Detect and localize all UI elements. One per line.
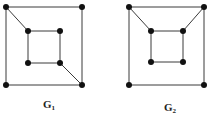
graph-vertex bbox=[25, 28, 31, 34]
graph-vertex bbox=[25, 60, 31, 66]
graph-vertex bbox=[148, 28, 154, 34]
label-base: G bbox=[164, 101, 173, 113]
graph-vertex bbox=[201, 4, 207, 10]
label-subscript: 2 bbox=[173, 107, 177, 115]
graph-g2-label: G2 bbox=[164, 102, 176, 115]
graph-vertex bbox=[180, 28, 186, 34]
graph-vertex bbox=[201, 82, 207, 88]
graph-vertex bbox=[79, 82, 85, 88]
graph-vertex bbox=[57, 28, 63, 34]
graph-vertex bbox=[3, 82, 9, 88]
graph-diagram bbox=[0, 0, 209, 123]
label-subscript: 1 bbox=[52, 104, 56, 112]
graph-vertex bbox=[148, 59, 154, 65]
graph-g1 bbox=[3, 4, 85, 88]
graph-vertex bbox=[3, 4, 9, 10]
graph-edge bbox=[60, 63, 82, 85]
graph-vertex bbox=[180, 59, 186, 65]
label-base: G bbox=[43, 98, 52, 110]
graph-g2 bbox=[126, 4, 207, 88]
graph-vertex bbox=[57, 60, 63, 66]
graph-vertex bbox=[126, 4, 132, 10]
graph-g1-label: G1 bbox=[43, 99, 55, 112]
graph-vertex bbox=[126, 82, 132, 88]
graph-vertex bbox=[79, 4, 85, 10]
graph-edge bbox=[129, 7, 151, 31]
graph-edge bbox=[183, 7, 204, 31]
graph-edge bbox=[6, 7, 28, 31]
